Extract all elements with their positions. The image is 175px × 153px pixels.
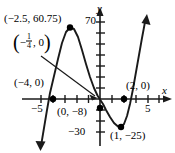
point-label-local-max: (−2.5, 60.75) [4, 13, 62, 24]
graph-figure: y x 70 −30 −5 5 (−2.5, 60.75) (−4, 0) (0… [0, 0, 175, 153]
point-label-root-2: (2, 0) [126, 80, 150, 91]
fraction-one-quarter: 1 4 [26, 33, 32, 51]
marker-local-max [67, 24, 73, 30]
y-tick-label-70: 70 [85, 15, 96, 26]
point-label-root-minus4: (−4, 0) [14, 77, 44, 88]
fraction-numerator: 1 [26, 33, 32, 41]
frac-open-paren: ( [13, 34, 20, 50]
x-axis-label: x [162, 85, 167, 96]
frac-close-paren: ) [44, 34, 51, 50]
point-label-y-intercept: (0, −8) [57, 106, 87, 117]
point-label-root-minus-quarter: ( − 1 4 , 0 ) [13, 33, 51, 51]
marker-root-2 [121, 96, 127, 102]
frac-rest-text: , 0 [33, 36, 44, 48]
marker-y-intercept [97, 105, 103, 111]
y-axis-label: y [97, 3, 102, 14]
point-label-local-min: (1, −25) [110, 130, 146, 141]
fraction-denominator: 4 [26, 41, 32, 50]
x-tick-label-minus5: −5 [31, 103, 43, 114]
x-tick-label-5: 5 [145, 103, 151, 114]
marker-root-neg4 [50, 96, 56, 102]
y-tick-label-minus30: −30 [68, 126, 85, 137]
